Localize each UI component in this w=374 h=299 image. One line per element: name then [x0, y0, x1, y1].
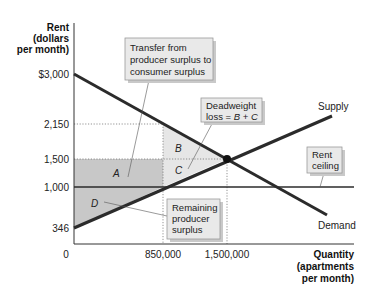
demand-label: Demand [318, 220, 356, 231]
svg-text:Remaining: Remaining [172, 202, 217, 213]
x-axis-title-line3: per month) [302, 273, 354, 284]
equilibrium-point [223, 155, 231, 163]
svg-text:producer surplus to: producer surplus to [130, 54, 211, 65]
transfer-note: Transfer from producer surplus to consum… [125, 38, 216, 83]
y-axis-title-line1: Rent [47, 22, 70, 33]
x-axis-title-line1: Quantity [313, 249, 354, 260]
x-tick-1500000: 1,500,000 [205, 249, 250, 260]
remaining-surplus-note: Remaining producer surplus [167, 199, 223, 242]
y-axis-title-line2: (dollars [33, 33, 70, 44]
area-c-shading [163, 159, 227, 187]
svg-text:Transfer from: Transfer from [130, 42, 187, 53]
svg-text:producer: producer [172, 213, 210, 224]
area-a-label: A [112, 168, 120, 179]
area-b-label: B [175, 143, 182, 154]
rent-ceiling-note: Rent ceiling [307, 147, 345, 176]
svg-text:ceiling: ceiling [312, 160, 339, 171]
x-tick-0: 0 [63, 249, 69, 260]
svg-text:surplus: surplus [172, 224, 203, 235]
y-tick-346: 346 [52, 223, 69, 234]
area-d-label: D [91, 198, 98, 209]
x-tick-850000: 850,000 [145, 249, 182, 260]
svg-text:consumer surplus: consumer surplus [130, 66, 205, 77]
area-c-label: C [175, 165, 183, 176]
y-tick-3000: $3,000 [38, 69, 69, 80]
deadweight-note: Deadweight loss = B + C [201, 98, 265, 125]
x-axis-title-line2: (apartments [297, 261, 355, 272]
y-tick-2150: 2,150 [44, 119, 69, 130]
y-axis-title-line3: per month) [17, 44, 69, 55]
svg-text:Rent: Rent [312, 149, 332, 160]
supply-label: Supply [318, 101, 349, 112]
rent-control-chart: $3,000 2,150 1,500 1,000 346 0 850,000 1… [0, 0, 374, 299]
y-tick-1500: 1,500 [44, 154, 69, 165]
svg-text:loss = B + C: loss = B + C [206, 111, 258, 122]
svg-text:Deadweight: Deadweight [206, 100, 257, 111]
y-tick-1000: 1,000 [44, 182, 69, 193]
